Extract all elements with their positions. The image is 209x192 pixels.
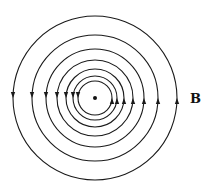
arrow-up-icon (142, 98, 146, 104)
arrow-down-icon (76, 92, 80, 98)
magnetic-field-diagram: B (0, 0, 209, 192)
arrow-up-icon (110, 98, 114, 104)
arrow-up-icon (115, 98, 119, 104)
arrow-down-icon (30, 92, 34, 98)
field-label-b: B (190, 91, 201, 106)
wire-dot-icon (93, 96, 97, 100)
arrow-down-icon (44, 92, 48, 98)
arrow-up-icon (131, 98, 135, 104)
arrow-up-icon (156, 98, 160, 104)
arrow-up-icon (122, 98, 126, 104)
arrow-up-icon (175, 98, 179, 104)
arrow-down-icon (11, 92, 15, 98)
arrow-down-icon (71, 92, 75, 98)
arrow-down-icon (55, 92, 59, 98)
arrow-down-icon (64, 92, 68, 98)
